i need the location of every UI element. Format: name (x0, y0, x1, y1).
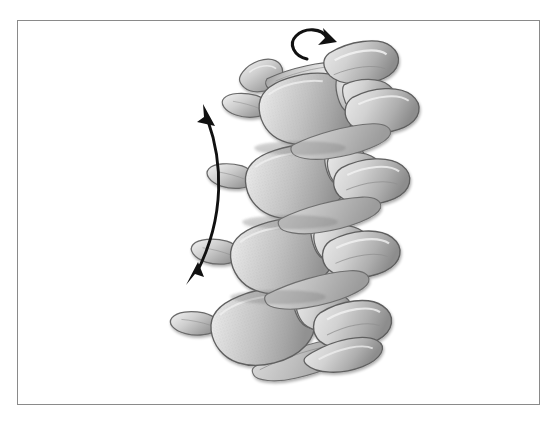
vertebra-1 (215, 30, 426, 178)
illustration-page (0, 0, 559, 422)
spine-column (165, 30, 425, 415)
spine-illustration (0, 0, 559, 422)
flexion-arrow-head-up (197, 104, 215, 126)
